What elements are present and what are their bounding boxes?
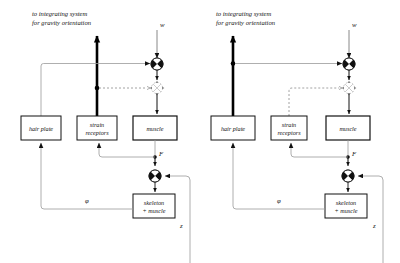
right-box-skeleton-muscle: skeleton + muscle bbox=[325, 194, 367, 218]
left-summing-junction-top bbox=[151, 58, 163, 70]
right-force-feedback-strain bbox=[291, 143, 348, 157]
right-force-label: F bbox=[351, 150, 357, 157]
right-dashed-arrowhead-icon bbox=[339, 86, 342, 89]
left-dotted-comparator-icon bbox=[150, 81, 165, 96]
right-input-label: w bbox=[352, 21, 357, 28]
left-force-label: F bbox=[158, 150, 164, 157]
left-dashed-arrowhead-icon bbox=[147, 86, 150, 89]
right-dashed-link bbox=[289, 88, 339, 116]
right-angle-label: φ bbox=[277, 197, 281, 204]
left-panel: to integrating system for gravity orient… bbox=[21, 10, 190, 263]
left-angle-label: φ bbox=[85, 197, 89, 204]
left-box-skeleton-muscle: skeleton + muscle bbox=[133, 194, 175, 218]
left-strain-label-1: strain bbox=[90, 121, 104, 128]
left-hair-plate-label: hair plate bbox=[29, 125, 53, 132]
right-hair-plate-label: hair plate bbox=[221, 125, 245, 132]
right-box-strain-receptors: strain receptors bbox=[271, 116, 307, 140]
left-disturbance-label: z bbox=[179, 222, 183, 229]
left-strain-label-2: receptors bbox=[85, 129, 109, 136]
left-input-label: w bbox=[160, 21, 165, 28]
branch-node-icon bbox=[95, 86, 100, 91]
right-dotted-comparator-icon bbox=[342, 81, 357, 96]
left-box-muscle: muscle bbox=[133, 116, 177, 140]
right-panel: to integrating system for gravity orient… bbox=[211, 10, 383, 263]
right-branch-node-icon bbox=[231, 61, 236, 66]
right-disturbance-line bbox=[358, 176, 383, 263]
right-caption-line2: for gravity orientation bbox=[216, 19, 276, 26]
right-caption-line1: to integrating system bbox=[216, 10, 272, 17]
right-skeleton-label-1: skeleton bbox=[336, 199, 356, 206]
left-disturbance-line bbox=[165, 176, 190, 263]
left-caption-line1: to integrating system bbox=[32, 10, 88, 17]
left-skeleton-label-1: skeleton bbox=[144, 199, 164, 206]
left-box-strain-receptors: strain receptors bbox=[77, 116, 117, 140]
right-strain-label-1: strain bbox=[282, 121, 296, 128]
left-hairplate-feedback bbox=[41, 64, 150, 117]
left-skeleton-label-2: + muscle bbox=[143, 207, 166, 214]
right-summing-junction-bottom bbox=[342, 170, 354, 182]
left-force-feedback-strain bbox=[99, 143, 155, 157]
left-muscle-label: muscle bbox=[146, 125, 163, 132]
figure-canvas: to integrating system for gravity orient… bbox=[0, 0, 400, 263]
right-box-muscle: muscle bbox=[326, 116, 370, 140]
left-summing-junction-bottom bbox=[149, 170, 161, 182]
right-strain-label-2: receptors bbox=[277, 129, 301, 136]
right-box-hair-plate: hair plate bbox=[211, 116, 255, 140]
right-disturbance-label: z bbox=[372, 222, 376, 229]
right-summing-junction-top bbox=[343, 58, 355, 70]
right-muscle-label: muscle bbox=[339, 125, 356, 132]
left-box-hair-plate: hair plate bbox=[21, 116, 61, 140]
right-skeleton-label-2: + muscle bbox=[335, 207, 358, 214]
block-diagram: to integrating system for gravity orient… bbox=[0, 0, 400, 263]
left-caption-line2: for gravity orientation bbox=[32, 19, 92, 26]
